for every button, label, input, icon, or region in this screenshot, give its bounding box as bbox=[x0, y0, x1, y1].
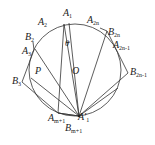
label-a1-prime: A′1 bbox=[78, 112, 89, 123]
label-a2: A2 bbox=[38, 17, 47, 28]
label-a3: A3 bbox=[22, 46, 31, 57]
geometry-diagram: A1 A2 B2 A3 B3 P O θ A2n B2n A2n-1 B2n-1… bbox=[0, 0, 155, 145]
label-b2n: B2n bbox=[108, 27, 120, 38]
label-o: O bbox=[72, 66, 79, 76]
label-b3: B3 bbox=[12, 76, 21, 87]
label-a2n-1: A2n-1 bbox=[113, 40, 130, 51]
label-theta: θ bbox=[65, 40, 69, 48]
label-p: P bbox=[35, 66, 41, 76]
label-b2: B2 bbox=[25, 32, 34, 43]
label-bm1: Bm+1 bbox=[65, 123, 82, 134]
label-a2n: A2n bbox=[87, 15, 99, 26]
label-b2n-1: B2n-1 bbox=[130, 67, 147, 78]
label-am1: Am+1 bbox=[48, 113, 65, 124]
label-a1: A1 bbox=[63, 8, 72, 19]
